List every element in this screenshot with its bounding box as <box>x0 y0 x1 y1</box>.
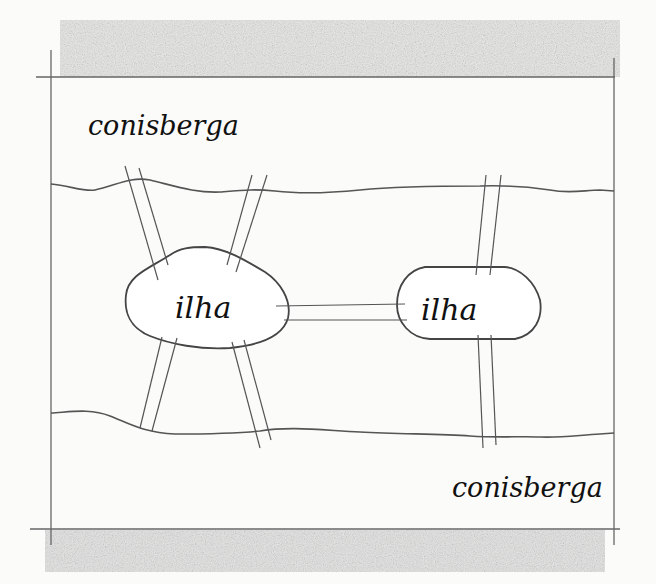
shading-bottom <box>45 530 605 572</box>
label-south-bank: conisberga <box>452 472 603 503</box>
konigsberg-sketch: conisberga ilha ilha conisberga <box>0 0 656 584</box>
north-riverbank <box>51 179 614 193</box>
bridge-5 <box>140 337 177 431</box>
label-island-west: ilha <box>175 290 231 325</box>
shading-top <box>60 20 620 77</box>
bridge-4 <box>276 304 407 320</box>
south-riverbank <box>51 411 614 437</box>
bridge-3 <box>476 175 501 275</box>
label-island-east: ilha <box>421 292 477 327</box>
label-north-bank: conisberga <box>88 110 239 141</box>
bridge-7 <box>478 335 496 448</box>
